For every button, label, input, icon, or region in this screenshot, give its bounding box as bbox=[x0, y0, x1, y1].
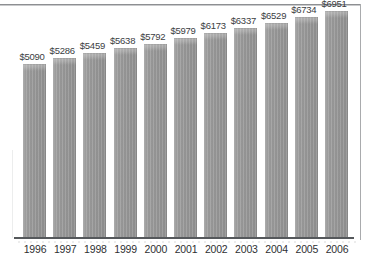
x-axis-tick-labels: 1996199719981999200020012002200320042005… bbox=[20, 243, 360, 263]
bar-group: $5792 bbox=[141, 12, 171, 238]
page-rule-right bbox=[360, 4, 361, 240]
bar bbox=[295, 17, 318, 238]
x-axis-line bbox=[14, 237, 354, 239]
bar-group: $6529 bbox=[262, 12, 292, 238]
x-tick-label: 1996 bbox=[18, 243, 52, 255]
bar-chart-figure: $5090$5286$5459$5638$5792$5979$6173$6337… bbox=[0, 0, 383, 273]
bar-group: $6173 bbox=[201, 12, 231, 238]
bar-group: $6337 bbox=[231, 12, 261, 238]
x-tick-label: 2003 bbox=[229, 243, 263, 255]
bar-series: $5090$5286$5459$5638$5792$5979$6173$6337… bbox=[20, 12, 360, 238]
bar bbox=[144, 44, 167, 238]
bar bbox=[234, 28, 257, 238]
bar bbox=[53, 58, 76, 238]
bar bbox=[114, 48, 137, 238]
x-tick-label: 1998 bbox=[78, 243, 112, 255]
page-rule-left bbox=[12, 150, 13, 238]
bar-value-label: $6951 bbox=[317, 0, 351, 9]
bar-group: $5979 bbox=[171, 12, 201, 238]
bar-value-label: $5792 bbox=[136, 31, 170, 42]
bar-value-label: $5979 bbox=[166, 25, 200, 36]
x-tick-label: 2001 bbox=[169, 243, 203, 255]
x-tick-label: 2002 bbox=[199, 243, 233, 255]
bar bbox=[83, 53, 106, 238]
x-tick-label: 2005 bbox=[290, 243, 324, 255]
bar-value-label: $6734 bbox=[287, 4, 321, 15]
bar-group: $6951 bbox=[322, 12, 352, 238]
bar-group: $6734 bbox=[292, 12, 322, 238]
bar bbox=[265, 23, 288, 238]
bar-value-label: $5286 bbox=[45, 45, 79, 56]
bar-value-label: $5638 bbox=[106, 35, 140, 46]
bar-value-label: $6173 bbox=[196, 20, 230, 31]
bar-group: $5638 bbox=[111, 12, 141, 238]
x-tick-label: 2004 bbox=[260, 243, 294, 255]
bar bbox=[204, 33, 227, 238]
bar bbox=[174, 38, 197, 238]
x-tick-label: 2006 bbox=[320, 243, 354, 255]
x-tick-label: 1999 bbox=[109, 243, 143, 255]
bar bbox=[325, 11, 348, 238]
bar-value-label: $6337 bbox=[226, 15, 260, 26]
x-tick-label: 1997 bbox=[48, 243, 82, 255]
bar-value-label: $6529 bbox=[257, 10, 291, 21]
x-tick-label: 2000 bbox=[139, 243, 173, 255]
bar-value-label: $5459 bbox=[75, 40, 109, 51]
bar-value-label: $5090 bbox=[15, 51, 49, 62]
bar bbox=[23, 64, 46, 238]
